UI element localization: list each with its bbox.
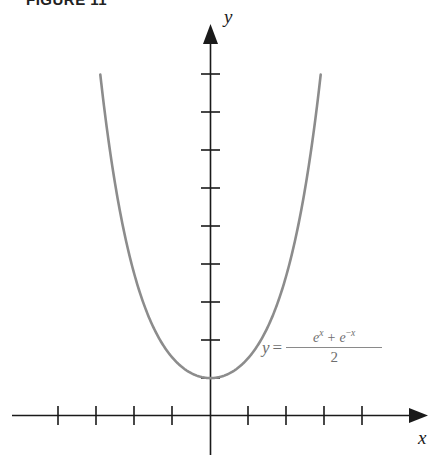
equation-lhs: y xyxy=(262,338,270,358)
horizontal-axis xyxy=(12,406,428,425)
equation-equals-sign: = xyxy=(273,338,283,358)
numerator-first-exponent: x xyxy=(319,328,323,338)
y-axis-arrow-icon xyxy=(203,24,218,44)
x-axis-arrow-icon xyxy=(409,408,428,423)
equation-annotation: y = ex+e−x 2 xyxy=(262,330,382,366)
plot-canvas xyxy=(0,0,440,471)
equation-numerator: ex+e−x xyxy=(307,330,361,347)
x-axis-label: x xyxy=(418,427,426,449)
equation-denominator: 2 xyxy=(324,348,344,366)
numerator-operator: + xyxy=(324,330,340,345)
vertical-axis xyxy=(201,24,220,455)
numerator-second-exponent-value: x xyxy=(351,328,355,338)
numerator-second-exponent: −x xyxy=(346,328,356,338)
y-axis-label: y xyxy=(224,6,232,28)
equation-fraction: ex+e−x 2 xyxy=(286,330,382,366)
figure-container: FIGURE 11 xyxy=(0,0,440,471)
